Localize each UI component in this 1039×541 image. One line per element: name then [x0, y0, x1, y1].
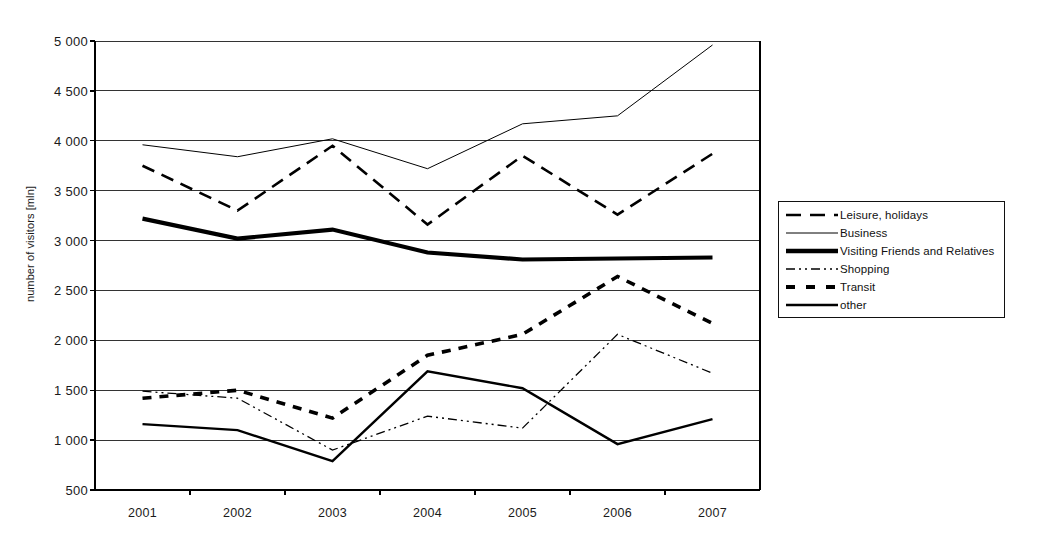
legend-item[interactable]: Visiting Friends and Relatives	[779, 242, 1004, 260]
legend-item[interactable]: Transit	[779, 278, 1004, 296]
legend-item[interactable]: Business	[779, 224, 1004, 242]
legend-item[interactable]: other	[779, 296, 1004, 314]
dashed-line-swatch	[784, 209, 840, 221]
legend-item-label: other	[840, 299, 867, 311]
x-axis-tick-label: 2003	[318, 506, 347, 520]
x-axis-tick-label: 2004	[413, 506, 442, 520]
x-axis-tick-label: 2007	[698, 506, 727, 520]
x-axis-tick-label: 2001	[128, 506, 157, 520]
x-axis-tick-label: 2005	[508, 506, 537, 520]
chart-legend: Leisure, holidaysBusinessVisiting Friend…	[778, 201, 1005, 318]
line-chart: number of visitors [mln] 5001 0001 5002 …	[0, 0, 1039, 541]
legend-item-label: Leisure, holidays	[840, 209, 928, 221]
legend-item[interactable]: Leisure, holidays	[779, 206, 1004, 224]
thick-dashed-line-swatch	[784, 281, 840, 293]
thick-solid-line-swatch	[784, 245, 840, 257]
legend-item-label: Visiting Friends and Relatives	[840, 245, 994, 257]
legend-item-label: Transit	[840, 281, 875, 293]
legend-item[interactable]: Shopping	[779, 260, 1004, 278]
x-axis-tick-label: 2006	[603, 506, 632, 520]
legend-item-label: Shopping	[840, 263, 889, 275]
dash-dot-dot-line-swatch	[784, 263, 840, 275]
medium-solid-line-swatch	[784, 299, 840, 311]
thin-solid-line-swatch	[784, 227, 840, 239]
x-axis-tick-label: 2002	[223, 506, 252, 520]
legend-item-label: Business	[840, 227, 887, 239]
